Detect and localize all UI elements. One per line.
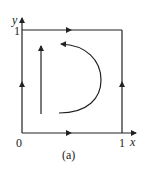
x-tick-label: 1 <box>119 136 125 150</box>
right-edge-arrow-icon <box>119 81 125 87</box>
interior-curved-arrow <box>59 44 101 113</box>
x-axis-label: x <box>129 135 136 149</box>
top-edge-arrow-icon <box>66 27 72 33</box>
origin-label: 0 <box>16 136 22 150</box>
phase-diagram: y 1 0 1 x (a) <box>0 0 146 171</box>
caption: (a) <box>62 148 75 162</box>
left-edge-arrow-icon <box>19 81 25 87</box>
bottom-edge-arrow-icon <box>66 130 72 136</box>
y-tick-label: 1 <box>14 24 20 38</box>
